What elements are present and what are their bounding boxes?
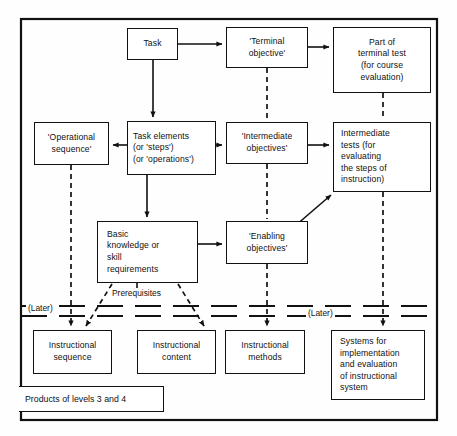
node-basic-knowledge[interactable]: Basic knowledge or skill requirements — [97, 221, 198, 283]
label-prerequisites: Prerequisites — [110, 288, 163, 298]
node-enabling-objectives-label: 'Enabling objectives' — [244, 231, 291, 254]
node-terminal-objective[interactable]: 'Terminal objective' — [226, 27, 308, 68]
node-operational-sequence-label: 'Operational sequence' — [45, 132, 98, 155]
node-instructional-methods-label: Instructional methods — [238, 340, 292, 363]
node-task-elements[interactable]: Task elements (or 'steps') (or 'operatio… — [127, 121, 216, 175]
node-operational-sequence[interactable]: 'Operational sequence' — [34, 122, 109, 165]
node-part-terminal-test[interactable]: Part of terminal test (for course evalua… — [333, 27, 431, 93]
node-instructional-sequence[interactable]: Instructional sequence — [33, 330, 112, 374]
diagram-canvas: Task 'Terminal objective' Part of termin… — [0, 0, 457, 436]
node-task-label: Task — [140, 38, 164, 50]
node-task[interactable]: Task — [127, 28, 178, 60]
node-instructional-methods[interactable]: Instructional methods — [225, 330, 305, 374]
box-products-of-levels: Products of levels 3 and 4 — [19, 386, 164, 412]
node-task-elements-label: Task elements (or 'steps') (or 'operatio… — [128, 131, 197, 166]
node-terminal-objective-label: 'Terminal objective' — [246, 36, 289, 59]
node-instructional-sequence-label: Instructional sequence — [46, 340, 100, 363]
node-instructional-content-label: Instructional content — [150, 340, 204, 363]
node-intermediate-objectives-label: 'Intermediate objectives' — [239, 131, 296, 154]
node-systems-implementation[interactable]: Systems for implementation and evaluatio… — [331, 330, 425, 400]
node-basic-knowledge-label: Basic knowledge or skill requirements — [98, 229, 162, 275]
node-enabling-objectives[interactable]: 'Enabling objectives' — [226, 221, 308, 264]
node-intermediate-tests-label: Intermediate tests (for evaluating the s… — [334, 128, 393, 186]
label-later-right: (Later) — [306, 308, 335, 318]
node-part-terminal-test-label: Part of terminal test (for course evalua… — [355, 37, 409, 83]
node-intermediate-objectives[interactable]: 'Intermediate objectives' — [226, 122, 308, 164]
node-intermediate-tests[interactable]: Intermediate tests (for evaluating the s… — [333, 122, 431, 192]
node-systems-implementation-label: Systems for implementation and evaluatio… — [332, 336, 403, 394]
node-instructional-content[interactable]: Instructional content — [137, 330, 216, 374]
label-later-left: (Later) — [26, 303, 55, 313]
box-products-of-levels-label: Products of levels 3 and 4 — [19, 394, 126, 404]
